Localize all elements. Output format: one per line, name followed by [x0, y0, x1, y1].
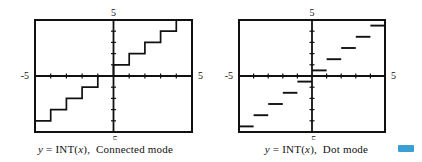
axis-label-top: 5 — [310, 7, 315, 18]
blue-accent-marker — [398, 145, 414, 152]
caption-dot-mode: y = INT(x), Dot mode — [211, 143, 422, 155]
figure-int-function: 5 -5 -5 5 y = INT(x), Connected mode — [0, 0, 422, 162]
panel-dot-mode: 5 -5 -5 5 y = INT(x), Dot mode — [211, 0, 422, 162]
caption-connected-mode: y = INT(x), Connected mode — [0, 143, 211, 155]
plot-connected-mode: 5 -5 -5 5 — [0, 0, 211, 140]
axis-label-bottom: -5 — [308, 134, 316, 140]
plot-dot-mode: 5 -5 -5 5 — [211, 0, 422, 140]
caption-equals: = — [270, 143, 282, 155]
axis-label-right: 5 — [391, 70, 396, 81]
caption-function-name: INT( — [55, 143, 78, 155]
axis-label-bottom: -5 — [109, 134, 117, 140]
caption-close-paren: ), — [83, 143, 90, 155]
axis-label-right: 5 — [198, 70, 203, 81]
caption-mode-label: Dot mode — [323, 143, 368, 155]
axis-label-left: -5 — [21, 70, 29, 81]
axis-label-top: 5 — [111, 7, 116, 18]
caption-equals: = — [43, 143, 55, 155]
axis-label-left: -5 — [225, 70, 233, 81]
caption-function-name: INT( — [282, 143, 305, 155]
caption-close-paren: ), — [310, 143, 317, 155]
panel-connected-mode: 5 -5 -5 5 y = INT(x), Connected mode — [0, 0, 211, 162]
caption-mode-label: Connected mode — [96, 143, 173, 155]
